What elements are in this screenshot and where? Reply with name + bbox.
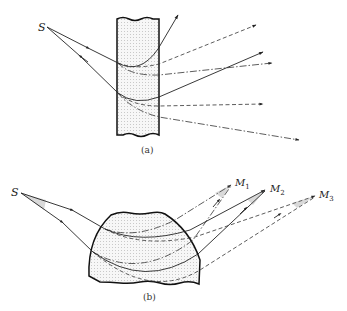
dome-medium	[89, 212, 200, 284]
incident-ray-upper-cont	[88, 48, 118, 63]
caption-a: (a)	[141, 145, 153, 155]
refraction-figure: S (a) S	[0, 0, 347, 311]
incident-ray-b-upper-cont	[72, 210, 105, 229]
m2-cone-hatch	[247, 190, 265, 205]
incident-ray-b-lower-cont	[62, 222, 93, 252]
ray-b6-m3-arrow	[274, 214, 280, 218]
panel-a: S (a)	[38, 15, 299, 155]
m1-cone-hatch	[215, 185, 231, 198]
source-label-a: S	[38, 21, 46, 34]
slab-medium	[117, 18, 159, 137]
caption-b: (b)	[143, 292, 156, 302]
incident-ray-b-lower	[21, 193, 62, 222]
source-label-b: S	[11, 186, 19, 199]
image-label-m2: M2	[269, 183, 285, 197]
incident-ray-b-upper	[21, 193, 72, 210]
image-label-m1: M1	[234, 177, 250, 191]
image-label-m3: M3	[318, 189, 334, 203]
incident-ray-lower-cont	[80, 56, 118, 93]
m3-cone-hatch	[292, 196, 315, 208]
panel-b: S M1 M2 M3 (b)	[11, 177, 334, 302]
ray-b4-m2-arrow	[240, 208, 246, 214]
ray-b2-m1-arrow	[213, 200, 219, 207]
